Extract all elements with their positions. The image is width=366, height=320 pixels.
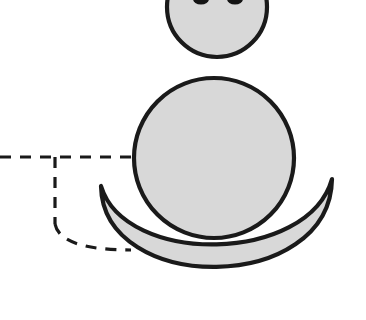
figure-canvas	[0, 0, 366, 320]
body-circle	[134, 78, 294, 238]
diagram-svg	[0, 0, 366, 320]
annotations-layer	[0, 157, 136, 250]
head-circle	[167, 0, 267, 57]
shapes-layer	[101, 0, 332, 267]
